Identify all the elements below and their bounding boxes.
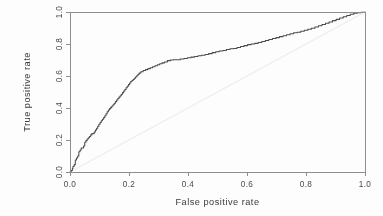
y-axis-tick-marks [66, 12, 70, 172]
x-tick-label: 0.4 [182, 180, 195, 189]
y-tick-label: 0.6 [55, 70, 64, 83]
y-tick-label: 0.8 [55, 38, 64, 51]
y-axis-title: True positive rate [22, 52, 32, 132]
x-tick-label: 0.8 [300, 180, 313, 189]
x-tick-label: 0.0 [64, 180, 77, 189]
y-tick-label: 0.0 [55, 166, 64, 179]
x-tick-label: 1.0 [359, 180, 372, 189]
x-axis-tick-marks [70, 172, 365, 176]
y-axis-tick-labels: 0.00.20.40.60.81.0 [55, 6, 64, 179]
y-tick-label: 1.0 [55, 6, 64, 19]
x-tick-label: 0.6 [241, 180, 254, 189]
roc-chart-canvas: 0.00.20.40.60.81.0 0.00.20.40.60.81.0 Fa… [0, 0, 383, 216]
roc-figure-container: 0.00.20.40.60.81.0 0.00.20.40.60.81.0 Fa… [0, 0, 383, 216]
chance-diagonal-line [70, 12, 365, 172]
x-axis-title: False positive rate [175, 197, 259, 207]
y-tick-label: 0.2 [55, 134, 64, 147]
x-axis-tick-labels: 0.00.20.40.60.81.0 [64, 180, 372, 189]
x-tick-label: 0.2 [123, 180, 136, 189]
y-tick-label: 0.4 [55, 102, 64, 115]
